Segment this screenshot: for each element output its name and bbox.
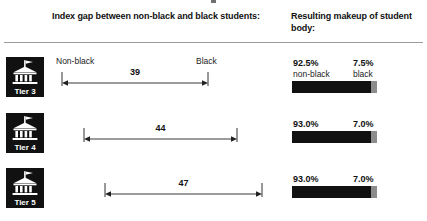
bar-segment-black (371, 131, 377, 143)
student-body-makeup-row: 93.0%7.0% (291, 113, 423, 153)
major-percent-value: 92.5% (293, 58, 319, 68)
figure-root: Index gap between non-black and black st… (0, 0, 427, 221)
makeup-stacked-bar (292, 186, 377, 198)
gap-arrow-icon (0, 168, 280, 208)
top-crop-artifact (211, 0, 216, 3)
index-gap-row: 44 (0, 113, 280, 153)
bar-segment-black (371, 81, 377, 93)
makeup-stacked-bar (292, 81, 377, 93)
minor-percent-value: 7.0% (353, 174, 374, 184)
major-percent-value: 93.0% (293, 174, 319, 184)
student-body-makeup-row: 93.0%7.0% (291, 168, 423, 208)
major-percent-value: 93.0% (293, 119, 319, 129)
minor-percent-value: 7.0% (353, 119, 374, 129)
minor-percent-label: black (353, 69, 373, 79)
bar-segment-non-black (292, 186, 371, 198)
makeup-stacked-bar (292, 131, 377, 143)
bar-segment-non-black (292, 131, 371, 143)
gap-arrow-icon (0, 113, 280, 153)
bar-segment-non-black (292, 81, 371, 93)
header-divider (4, 42, 423, 43)
column-header-resulting-makeup: Resulting makeup of student body: (291, 11, 421, 34)
index-gap-row: 47 (0, 168, 280, 208)
minor-percent-value: 7.5% (353, 58, 374, 68)
column-header-index-gap: Index gap between non-black and black st… (52, 11, 262, 23)
gap-arrow-icon (0, 57, 280, 97)
bar-segment-black (371, 186, 377, 198)
major-percent-label: non-black (293, 69, 330, 79)
student-body-makeup-row: 92.5%7.5%non-blackblack (291, 57, 423, 97)
index-gap-row: Non-blackBlack39 (0, 57, 280, 97)
